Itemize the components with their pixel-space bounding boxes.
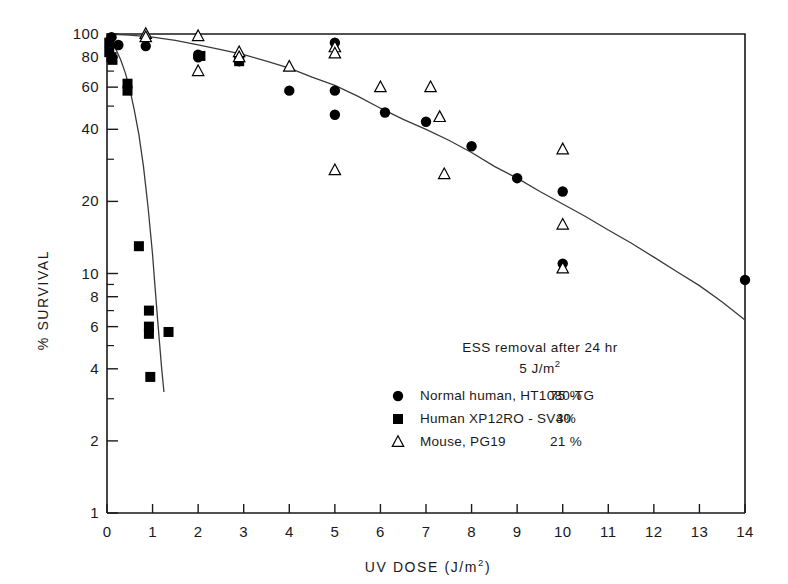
data-point bbox=[192, 30, 203, 41]
x-tick-label: 14 bbox=[736, 523, 754, 540]
y-tick-label: 10 bbox=[82, 265, 100, 282]
data-point bbox=[192, 65, 203, 76]
x-tick-label: 5 bbox=[330, 523, 339, 540]
y-axis-title-text: % SURVIVAL bbox=[35, 250, 51, 350]
x-axis-title-text: UV DOSE (J/m2) bbox=[365, 557, 491, 575]
x-axis-tick-labels: 01234567891011121314 bbox=[103, 523, 754, 540]
y-tick-label: 2 bbox=[90, 432, 99, 449]
data-point bbox=[434, 111, 445, 122]
data-point bbox=[512, 173, 522, 183]
x-tick-label: 4 bbox=[285, 523, 294, 540]
y-tick-label: 20 bbox=[82, 192, 100, 209]
y-tick-label: 60 bbox=[82, 78, 100, 95]
data-point bbox=[134, 241, 144, 251]
x-axis-title: UV DOSE (J/m2) bbox=[365, 557, 491, 575]
data-point bbox=[740, 275, 750, 285]
data-point bbox=[330, 85, 340, 95]
legend-item: Mouse, PG1921 % bbox=[392, 434, 582, 449]
data-point bbox=[141, 41, 151, 51]
x-tick-label: 1 bbox=[148, 523, 157, 540]
y-tick-label: 8 bbox=[90, 288, 99, 305]
y-tick-label: 1 bbox=[90, 504, 99, 521]
x-tick-label: 9 bbox=[513, 523, 522, 540]
data-point bbox=[466, 141, 476, 151]
x-tick-label: 8 bbox=[467, 523, 476, 540]
x-tick-label: 0 bbox=[103, 523, 112, 540]
data-point bbox=[558, 186, 568, 196]
annotation-line-1: ESS removal after 24 hr bbox=[462, 340, 618, 355]
x-axis-ticks bbox=[107, 504, 745, 513]
data-point bbox=[557, 218, 568, 229]
y-tick-label: 40 bbox=[82, 120, 100, 137]
series-filled-circle bbox=[106, 32, 750, 285]
data-point bbox=[195, 51, 205, 61]
data-point bbox=[380, 107, 390, 117]
annotation-line-2: 5 J/m2 bbox=[519, 358, 560, 376]
series-filled-square bbox=[104, 38, 244, 382]
legend-value: 3% bbox=[556, 411, 576, 426]
y-tick-label: 80 bbox=[82, 48, 100, 65]
survival-curve-figure: 01234567891011121314 124681020406080100 … bbox=[0, 0, 788, 584]
legend-marker-open-triangle bbox=[392, 436, 403, 447]
data-point-markers bbox=[104, 28, 750, 382]
data-point bbox=[421, 117, 431, 127]
data-point bbox=[557, 143, 568, 154]
x-tick-label: 11 bbox=[600, 523, 616, 540]
x-tick-label: 3 bbox=[239, 523, 248, 540]
legend-label: Human XP12RO - SV40 bbox=[420, 411, 571, 426]
legend-item: Human XP12RO - SV403% bbox=[393, 411, 576, 426]
fit-curve-normal-human-fit bbox=[107, 34, 745, 320]
legend-marker-filled-circle bbox=[393, 391, 403, 401]
data-point bbox=[144, 306, 154, 316]
data-point bbox=[439, 168, 450, 179]
x-tick-label: 12 bbox=[645, 523, 663, 540]
x-tick-label: 7 bbox=[422, 523, 431, 540]
data-point bbox=[164, 327, 174, 337]
y-tick-label: 4 bbox=[90, 360, 99, 377]
data-point bbox=[145, 372, 155, 382]
legend-value: 21 % bbox=[550, 434, 582, 449]
x-tick-label: 2 bbox=[194, 523, 203, 540]
legend-marker-filled-square bbox=[393, 414, 403, 424]
x-tick-label: 13 bbox=[691, 523, 709, 540]
legend: Normal human, HT1080-TG75 %Human XP12RO … bbox=[392, 388, 594, 449]
x-tick-label: 6 bbox=[376, 523, 385, 540]
data-point bbox=[284, 85, 294, 95]
legend-item: Normal human, HT1080-TG75 % bbox=[393, 388, 594, 403]
y-axis-tick-labels: 124681020406080100 bbox=[73, 25, 99, 521]
data-point bbox=[375, 81, 386, 92]
data-point bbox=[284, 61, 295, 72]
y-tick-label: 6 bbox=[90, 318, 99, 335]
data-point bbox=[107, 55, 117, 65]
annotation-block: ESS removal after 24 hr 5 J/m2 bbox=[462, 340, 618, 376]
data-point bbox=[425, 81, 436, 92]
y-tick-label: 100 bbox=[73, 25, 99, 42]
data-point bbox=[329, 164, 340, 175]
y-axis-title: % SURVIVAL bbox=[35, 250, 51, 350]
data-point bbox=[123, 86, 133, 96]
data-point bbox=[144, 329, 154, 339]
data-point bbox=[113, 40, 123, 50]
legend-label: Mouse, PG19 bbox=[420, 434, 506, 449]
x-tick-label: 10 bbox=[554, 523, 572, 540]
y-axis-ticks bbox=[107, 34, 118, 513]
data-point bbox=[330, 110, 340, 120]
fitted-curves bbox=[107, 34, 745, 392]
data-point bbox=[104, 38, 114, 48]
series-open-triangle bbox=[140, 28, 568, 273]
chart-svg: 01234567891011121314 124681020406080100 … bbox=[0, 0, 788, 584]
legend-value: 75 % bbox=[550, 388, 582, 403]
